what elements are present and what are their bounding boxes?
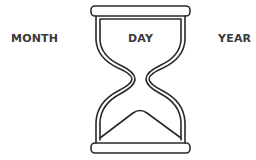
hourglass-icon [0, 0, 256, 160]
day-label: DAY [128, 32, 153, 45]
year-label: YEAR [218, 32, 251, 45]
month-label: MONTH [11, 32, 58, 45]
